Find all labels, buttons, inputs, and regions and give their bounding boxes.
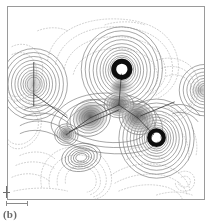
contour-plot-frame [7,6,205,200]
plot-background [8,7,204,199]
atom-core-o1 [117,65,126,74]
scale-bar [6,201,28,207]
bond-density-o1-c1 [108,77,136,95]
figure-caption: (b) [3,208,17,220]
scale-bar-cap-left [6,201,7,206]
scale-bar-line [6,203,28,204]
tick-horizontal [3,192,10,193]
contour-plot-canvas [8,7,204,199]
atom-core-o2 [153,134,161,142]
origin-tick-icon [3,186,10,198]
figure-root: (b) [0,0,219,222]
scale-bar-cap-right [27,201,28,206]
